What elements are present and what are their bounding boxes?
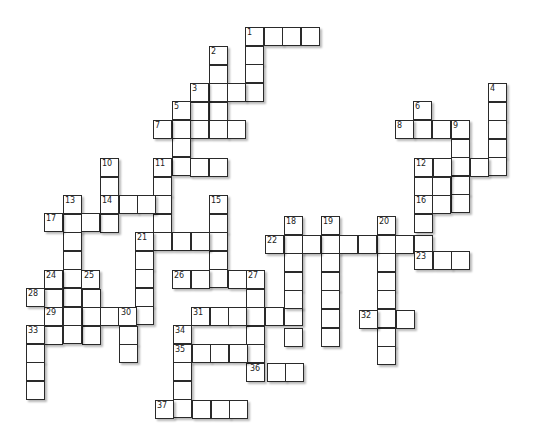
crossword-cell[interactable] <box>396 310 415 329</box>
crossword-cell[interactable] <box>63 288 82 307</box>
crossword-cell[interactable] <box>44 326 63 345</box>
crossword-cell[interactable] <box>63 325 82 344</box>
crossword-cell[interactable] <box>414 177 433 196</box>
crossword-cell[interactable] <box>119 344 138 363</box>
crossword-cell[interactable] <box>227 120 246 139</box>
crossword-cell[interactable] <box>191 270 210 289</box>
crossword-cell[interactable] <box>210 344 229 363</box>
crossword-cell[interactable] <box>451 157 470 176</box>
crossword-cell[interactable] <box>135 232 154 251</box>
crossword-cell[interactable] <box>433 158 452 177</box>
crossword-cell[interactable] <box>321 272 340 291</box>
crossword-cell[interactable] <box>26 381 45 400</box>
crossword-cell[interactable] <box>172 157 191 176</box>
crossword-cell[interactable] <box>451 251 470 270</box>
crossword-cell[interactable] <box>135 251 154 270</box>
crossword-cell[interactable] <box>358 235 377 254</box>
crossword-cell[interactable] <box>209 232 228 251</box>
crossword-cell[interactable] <box>246 307 265 326</box>
crossword-cell[interactable] <box>284 235 303 254</box>
crossword-cell[interactable] <box>190 158 209 177</box>
crossword-cell[interactable] <box>321 290 340 309</box>
crossword-cell[interactable] <box>100 195 119 214</box>
crossword-cell[interactable] <box>209 120 228 139</box>
crossword-cell[interactable] <box>488 157 507 176</box>
crossword-cell[interactable] <box>209 158 228 177</box>
crossword-cell[interactable] <box>26 344 45 363</box>
crossword-cell[interactable] <box>81 270 100 289</box>
crossword-cell[interactable] <box>26 288 45 307</box>
crossword-cell[interactable] <box>135 269 154 288</box>
crossword-cell[interactable] <box>265 235 284 254</box>
crossword-cell[interactable] <box>119 326 138 345</box>
crossword-cell[interactable] <box>267 363 286 382</box>
crossword-cell[interactable] <box>451 194 470 213</box>
crossword-cell[interactable] <box>284 290 303 309</box>
crossword-cell[interactable] <box>153 232 172 251</box>
crossword-cell[interactable] <box>377 235 396 254</box>
crossword-cell[interactable] <box>63 251 82 270</box>
crossword-cell[interactable] <box>191 307 210 326</box>
crossword-cell[interactable] <box>433 251 452 270</box>
crossword-cell[interactable] <box>245 83 264 102</box>
crossword-cell[interactable] <box>81 213 100 232</box>
crossword-cell[interactable] <box>301 27 320 46</box>
crossword-cell[interactable] <box>192 344 211 363</box>
crossword-cell[interactable] <box>44 213 63 232</box>
crossword-cell[interactable] <box>63 214 82 233</box>
crossword-cell[interactable] <box>191 232 210 251</box>
crossword-cell[interactable] <box>377 253 396 272</box>
crossword-cell[interactable] <box>172 138 191 157</box>
crossword-cell[interactable] <box>377 290 396 309</box>
crossword-cell[interactable] <box>321 235 340 254</box>
crossword-cell[interactable] <box>153 158 172 177</box>
crossword-cell[interactable] <box>63 232 82 251</box>
crossword-cell[interactable] <box>100 307 119 326</box>
crossword-cell[interactable] <box>282 27 301 46</box>
crossword-cell[interactable] <box>245 46 264 65</box>
crossword-cell[interactable] <box>414 214 433 233</box>
crossword-cell[interactable] <box>321 253 340 272</box>
crossword-cell[interactable] <box>229 400 248 419</box>
crossword-cell[interactable] <box>227 83 246 102</box>
crossword-cell[interactable] <box>100 158 119 177</box>
crossword-cell[interactable] <box>377 346 396 365</box>
crossword-cell[interactable] <box>265 307 284 326</box>
crossword-cell[interactable] <box>488 83 507 102</box>
crossword-cell[interactable] <box>172 232 191 251</box>
crossword-cell[interactable] <box>209 83 228 102</box>
crossword-cell[interactable] <box>192 400 211 419</box>
crossword-cell[interactable] <box>173 362 192 381</box>
crossword-cell[interactable] <box>246 344 265 363</box>
crossword-cell[interactable] <box>395 120 414 139</box>
crossword-cell[interactable] <box>264 27 283 46</box>
crossword-cell[interactable] <box>413 101 432 120</box>
crossword-cell[interactable] <box>100 214 119 233</box>
crossword-cell[interactable] <box>209 65 228 84</box>
crossword-cell[interactable] <box>321 309 340 328</box>
crossword-cell[interactable] <box>284 328 303 347</box>
crossword-cell[interactable] <box>119 195 138 214</box>
crossword-cell[interactable] <box>321 328 340 347</box>
crossword-cell[interactable] <box>377 216 396 235</box>
crossword-cell[interactable] <box>63 195 82 214</box>
crossword-cell[interactable] <box>118 307 137 326</box>
crossword-cell[interactable] <box>82 326 101 345</box>
crossword-cell[interactable] <box>414 158 433 177</box>
crossword-cell[interactable] <box>190 120 209 139</box>
crossword-cell[interactable] <box>246 363 265 382</box>
crossword-cell[interactable] <box>173 399 192 418</box>
crossword-cell[interactable] <box>285 363 304 382</box>
crossword-cell[interactable] <box>155 400 174 419</box>
crossword-cell[interactable] <box>209 214 228 233</box>
crossword-cell[interactable] <box>82 289 101 308</box>
crossword-cell[interactable] <box>190 102 209 121</box>
crossword-cell[interactable] <box>246 326 265 345</box>
crossword-cell[interactable] <box>488 120 507 139</box>
crossword-cell[interactable] <box>414 195 433 214</box>
crossword-cell[interactable] <box>211 400 230 419</box>
crossword-cell[interactable] <box>321 216 340 235</box>
crossword-cell[interactable] <box>377 309 396 328</box>
crossword-cell[interactable] <box>359 310 378 329</box>
crossword-cell[interactable] <box>284 307 303 326</box>
